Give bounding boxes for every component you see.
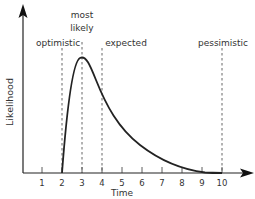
tick-label: 6 [139, 178, 144, 188]
pert-likelihood-chart: 1 2 3 4 5 6 7 8 9 10 Time Likelihood opt… [0, 0, 255, 199]
tick-label: 1 [39, 178, 44, 188]
likelihood-curve [62, 57, 222, 173]
x-tick-labels: 1 2 3 4 5 6 7 8 9 10 [39, 178, 227, 188]
most-likely-label-line2: likely [70, 23, 94, 33]
tick-label: 4 [99, 178, 104, 188]
tick-label: 2 [59, 178, 64, 188]
pessimistic-label: pessimistic [198, 38, 248, 48]
tick-label: 8 [179, 178, 184, 188]
tick-label: 7 [159, 178, 164, 188]
tick-label: 9 [199, 178, 204, 188]
expected-label: expected [105, 38, 147, 48]
tick-label: 3 [79, 178, 84, 188]
y-axis-title: Likelihood [4, 78, 15, 126]
tick-label: 5 [119, 178, 124, 188]
tick-label: 10 [217, 178, 228, 188]
most-likely-label-line1: most [71, 10, 94, 20]
x-axis-title: Time [110, 188, 133, 198]
optimistic-label: optimistic [36, 38, 80, 48]
reference-lines [62, 42, 222, 173]
